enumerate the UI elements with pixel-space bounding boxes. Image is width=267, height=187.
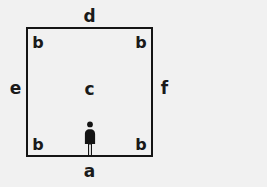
corner-label-top-left: b [31, 35, 45, 51]
corner-label-bottom-left: b [31, 137, 45, 153]
corner-label-top-right: b [134, 35, 148, 51]
diagram-canvas: d e f c b b b b a [0, 0, 267, 187]
corner-label-bottom-right: b [134, 137, 148, 153]
edge-label-top: d [0, 8, 179, 25]
edge-label-bottom: a [0, 163, 179, 180]
person-icon [83, 121, 97, 157]
center-label: c [0, 81, 179, 98]
